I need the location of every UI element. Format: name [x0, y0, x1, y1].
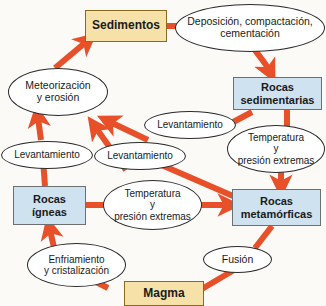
node-temperatura-presion-derecha-label: Temperatura y presión extremas [235, 132, 318, 166]
node-temperatura-presion-centro[interactable]: Temperatura y presión extremas [103, 180, 202, 230]
node-levantamiento-centro-label: Levantamiento [104, 150, 176, 161]
node-levantamiento-izquierda[interactable]: Levantamiento [1, 141, 93, 169]
node-sedimentos[interactable]: Sedimentos [85, 10, 167, 42]
edge-deposicion-rocas-sedimentarias [255, 50, 269, 70]
node-enfriamiento[interactable]: Enfriamiento y cristalización [27, 243, 126, 287]
rock-cycle-diagram: Sedimentos Deposición, compactación, cem… [0, 0, 326, 306]
node-levantamiento-derecha[interactable]: Levantamiento [144, 111, 236, 139]
node-enfriamiento-label: Enfriamiento y cristalización [41, 254, 112, 276]
node-rocas-sedimentarias[interactable]: Rocas sedimentarias [233, 77, 322, 110]
node-magma[interactable]: Magma [124, 281, 204, 306]
node-deposicion[interactable]: Deposición, compactación, cementación [175, 4, 325, 52]
edge-rocas-metamorficas-fusion [255, 226, 272, 248]
node-levantamiento-derecha-label: Levantamiento [154, 119, 226, 130]
node-temperatura-presion-centro-label: Temperatura y presión extremas [111, 188, 194, 222]
node-rocas-sedimentarias-label: Rocas sedimentarias [238, 81, 318, 106]
node-fusion[interactable]: Fusión [203, 246, 272, 273]
edge-levantamiento-der-meteorizacion [110, 122, 148, 140]
node-deposicion-label: Deposición, compactación, cementación [184, 16, 315, 40]
node-magma-label: Magma [140, 287, 187, 300]
node-meteorizacion[interactable]: Meteorización y erosión [8, 68, 108, 116]
node-rocas-igneas[interactable]: Rocas ígneas [13, 186, 86, 225]
node-levantamiento-centro[interactable]: Levantamiento [94, 142, 186, 170]
edge-meteorizacion-sedimentos [55, 42, 86, 68]
node-levantamiento-izquierda-label: Levantamiento [11, 149, 83, 160]
node-temperatura-presion-derecha[interactable]: Temperatura y presión extremas [227, 125, 325, 173]
node-fusion-label: Fusión [219, 254, 257, 266]
node-rocas-igneas-label: Rocas ígneas [29, 193, 70, 218]
node-meteorizacion-label: Meteorización y erosión [22, 80, 93, 104]
edge-levantamiento-izq-meteorizacion [38, 118, 41, 140]
node-rocas-metamorficas[interactable]: Rocas metamórficas [232, 189, 321, 226]
node-sedimentos-label: Sedimentos [89, 19, 163, 32]
node-rocas-metamorficas-label: Rocas metamórficas [238, 195, 316, 220]
